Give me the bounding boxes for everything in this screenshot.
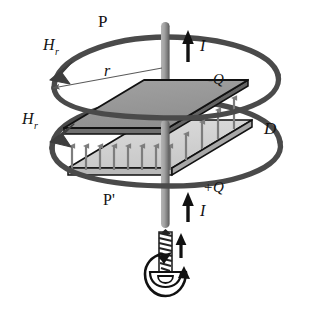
label-field-lower-symbol: H (21, 110, 35, 127)
label-charge-negative: -Q (208, 71, 224, 87)
wire-lower-body (161, 120, 170, 228)
label-current-top: I (199, 37, 206, 54)
upper-loop-direction-arrowhead (50, 62, 72, 84)
label-field-upper-subscript: r (55, 46, 59, 57)
parallel-plate-capacitor (64, 80, 252, 175)
label-field-lower-subscript: r (34, 120, 38, 131)
screw-threads (159, 233, 172, 271)
current-arrow-bottom-head (182, 192, 194, 206)
label-charge-positive: +Q (203, 179, 224, 195)
label-current-bottom: I (199, 202, 206, 219)
label-loop-lower: P' (103, 191, 115, 208)
current-arrow-screw (176, 233, 187, 258)
current-arrow-bottom (182, 192, 194, 222)
label-loop-upper: P (98, 12, 107, 31)
label-displacement-field: D (263, 119, 277, 138)
label-field-upper: H r (42, 36, 59, 57)
screw-head-slot (158, 276, 173, 283)
label-radius: r (104, 62, 111, 79)
label-field-lower: H r (21, 110, 38, 131)
current-arrow-screw-head (176, 233, 187, 245)
label-field-upper-symbol: H (42, 36, 56, 53)
current-carrying-wire-lower (161, 120, 170, 228)
physics-figure: P H r r I -Q H r D +Q P' I (0, 0, 313, 312)
figure-canvas: P H r r I -Q H r D +Q P' I (0, 0, 313, 312)
